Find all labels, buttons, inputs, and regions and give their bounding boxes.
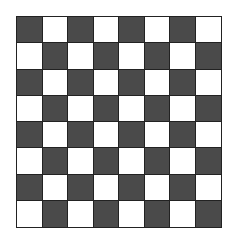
board-square-e2[interactable] xyxy=(119,175,145,201)
board-square-f8[interactable] xyxy=(145,17,171,43)
board-square-d8[interactable] xyxy=(94,17,120,43)
board-square-b5[interactable] xyxy=(43,96,69,122)
board-square-e6[interactable] xyxy=(119,70,145,96)
board-square-e4[interactable] xyxy=(119,122,145,148)
board-square-g7[interactable] xyxy=(170,43,196,69)
board-square-c5[interactable] xyxy=(68,96,94,122)
board-square-b7[interactable] xyxy=(43,43,69,69)
board-square-a6[interactable] xyxy=(17,70,43,96)
checkerboard xyxy=(16,16,222,228)
board-square-c3[interactable] xyxy=(68,148,94,174)
board-square-g8[interactable] xyxy=(170,17,196,43)
board-square-c1[interactable] xyxy=(68,201,94,227)
board-square-f5[interactable] xyxy=(145,96,171,122)
board-square-h2[interactable] xyxy=(196,175,222,201)
board-square-g5[interactable] xyxy=(170,96,196,122)
board-square-e1[interactable] xyxy=(119,201,145,227)
board-square-b3[interactable] xyxy=(43,148,69,174)
board-square-a5[interactable] xyxy=(17,96,43,122)
board-square-f7[interactable] xyxy=(145,43,171,69)
board-square-a4[interactable] xyxy=(17,122,43,148)
board-square-f1[interactable] xyxy=(145,201,171,227)
board-square-g4[interactable] xyxy=(170,122,196,148)
board-square-e7[interactable] xyxy=(119,43,145,69)
board-square-f2[interactable] xyxy=(145,175,171,201)
board-square-h6[interactable] xyxy=(196,70,222,96)
board-square-e5[interactable] xyxy=(119,96,145,122)
board-square-f4[interactable] xyxy=(145,122,171,148)
board-square-d4[interactable] xyxy=(94,122,120,148)
board-square-f6[interactable] xyxy=(145,70,171,96)
board-square-h8[interactable] xyxy=(196,17,222,43)
board-square-h1[interactable] xyxy=(196,201,222,227)
board-square-c8[interactable] xyxy=(68,17,94,43)
board-square-d5[interactable] xyxy=(94,96,120,122)
board-square-g2[interactable] xyxy=(170,175,196,201)
board-square-g6[interactable] xyxy=(170,70,196,96)
board-square-c7[interactable] xyxy=(68,43,94,69)
board-square-d1[interactable] xyxy=(94,201,120,227)
board-square-b1[interactable] xyxy=(43,201,69,227)
board-square-f3[interactable] xyxy=(145,148,171,174)
board-square-g3[interactable] xyxy=(170,148,196,174)
board-square-a7[interactable] xyxy=(17,43,43,69)
board-square-b2[interactable] xyxy=(43,175,69,201)
board-square-b8[interactable] xyxy=(43,17,69,43)
board-square-d7[interactable] xyxy=(94,43,120,69)
board-square-d2[interactable] xyxy=(94,175,120,201)
board-square-d3[interactable] xyxy=(94,148,120,174)
board-square-b4[interactable] xyxy=(43,122,69,148)
board-square-h4[interactable] xyxy=(196,122,222,148)
board-square-g1[interactable] xyxy=(170,201,196,227)
board-square-c4[interactable] xyxy=(68,122,94,148)
board-square-e3[interactable] xyxy=(119,148,145,174)
board-square-a2[interactable] xyxy=(17,175,43,201)
board-square-h7[interactable] xyxy=(196,43,222,69)
board-square-e8[interactable] xyxy=(119,17,145,43)
board-square-a3[interactable] xyxy=(17,148,43,174)
board-square-d6[interactable] xyxy=(94,70,120,96)
board-square-b6[interactable] xyxy=(43,70,69,96)
board-square-c6[interactable] xyxy=(68,70,94,96)
board-square-a8[interactable] xyxy=(17,17,43,43)
board-square-a1[interactable] xyxy=(17,201,43,227)
board-square-h5[interactable] xyxy=(196,96,222,122)
board-square-h3[interactable] xyxy=(196,148,222,174)
board-square-c2[interactable] xyxy=(68,175,94,201)
